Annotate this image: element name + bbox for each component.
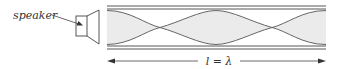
arrowhead-left-icon — [107, 59, 115, 64]
length-label: l = λ — [206, 55, 233, 68]
standing-wave-diagram: speaker l = λ — [0, 0, 338, 69]
speaker-icon — [76, 10, 99, 44]
arrowhead-right-icon — [318, 59, 326, 64]
wave-envelope-fill — [107, 11, 326, 45]
speaker-label: speaker — [13, 9, 58, 22]
